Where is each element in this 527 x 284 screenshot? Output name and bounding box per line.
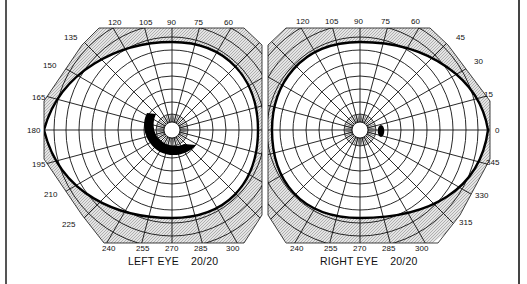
angle-label: 345 <box>486 158 500 167</box>
angle-label: 90 <box>167 18 176 27</box>
angle-label: 45 <box>456 33 465 42</box>
perimetry-charts: 1201059075601351501651801952102252402552… <box>0 0 527 284</box>
angle-label: 60 <box>411 17 420 26</box>
angle-label: 330 <box>475 191 489 200</box>
angle-label: 285 <box>382 244 396 253</box>
angle-label: 105 <box>325 17 339 26</box>
angle-label: 300 <box>226 244 240 253</box>
angle-label: 15 <box>484 90 493 99</box>
angle-label: 30 <box>474 57 483 66</box>
angle-label: 150 <box>43 61 57 70</box>
angle-label: 120 <box>296 17 310 26</box>
left-eye-title: LEFT EYE20/20 <box>128 255 218 267</box>
angle-label: 90 <box>354 17 363 26</box>
angle-label: 0 <box>495 126 500 135</box>
angle-label: 180 <box>27 126 41 135</box>
angle-label: 75 <box>381 17 390 26</box>
right-eye-title: RIGHT EYE20/20 <box>320 255 417 267</box>
angle-label: 105 <box>139 18 153 27</box>
angle-label: 315 <box>459 218 473 227</box>
angle-label: 210 <box>44 190 58 199</box>
angle-label: 255 <box>136 244 150 253</box>
angle-label: 165 <box>32 93 46 102</box>
angle-label: 135 <box>64 33 78 42</box>
angle-label: 270 <box>165 244 179 253</box>
angle-label: 195 <box>32 160 46 169</box>
angle-label: 255 <box>324 244 338 253</box>
angle-label: 240 <box>290 244 304 253</box>
angle-label: 285 <box>194 244 208 253</box>
angle-label: 225 <box>62 220 76 229</box>
angle-label: 240 <box>102 244 116 253</box>
angle-label: 75 <box>194 18 203 27</box>
angle-label: 300 <box>415 244 429 253</box>
visual-field-figure: 1201059075601351501651801952102252402552… <box>0 0 527 284</box>
angle-label: 120 <box>108 18 122 27</box>
angle-label: 60 <box>224 18 233 27</box>
angle-label: 270 <box>353 244 367 253</box>
